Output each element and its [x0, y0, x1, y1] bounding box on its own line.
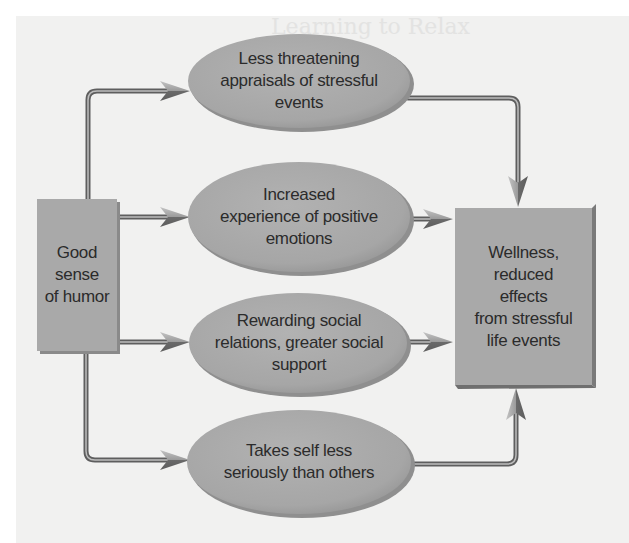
social-support-label: Rewarding social relations, greater soci… [195, 302, 403, 384]
edge-self-wellness [408, 412, 516, 464]
connectors [86, 91, 518, 464]
humor-label: Good sense of humor [37, 199, 117, 351]
self-seriousness-label: Takes self less seriously than others [195, 421, 403, 503]
edge-appraisals-wellness [408, 98, 518, 182]
positive-emotions-label: Increased experience of positive emotion… [195, 176, 403, 258]
edge-humor-appraisals [88, 91, 170, 200]
edge-humor-self [86, 352, 170, 460]
wellness-label: Wellness, reduced effects from stressful… [455, 208, 592, 385]
appraisals-label: Less threatening appraisals of stressful… [195, 40, 403, 122]
